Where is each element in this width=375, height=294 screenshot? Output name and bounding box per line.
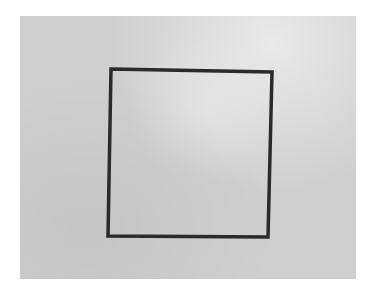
- hand-drawn-square: [0, 0, 375, 294]
